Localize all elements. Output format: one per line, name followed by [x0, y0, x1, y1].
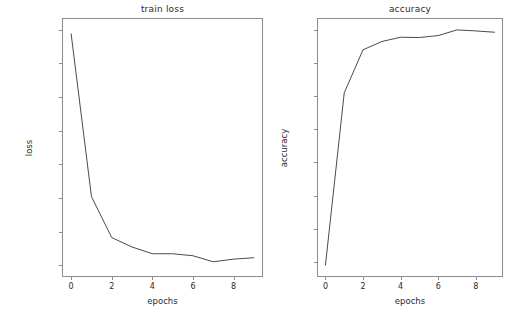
y-tick-mark — [314, 63, 317, 64]
series-line-accuracy — [325, 30, 494, 265]
y-tick-mark — [314, 162, 317, 163]
y-tick-mark — [314, 30, 317, 31]
y-axis-label-accuracy: accuracy — [279, 128, 289, 166]
y-tick-mark — [314, 96, 317, 97]
y-tick-mark — [314, 129, 317, 130]
x-tick-label: 8 — [473, 282, 478, 291]
x-tick-label: 0 — [323, 282, 328, 291]
x-axis-label-accuracy: epochs — [395, 296, 425, 306]
x-tick-label: 4 — [398, 282, 403, 291]
y-tick-mark — [314, 196, 317, 197]
x-tick-label: 6 — [436, 282, 441, 291]
matplotlib-figure: train loss 0.0000.0250.0500.0750.1000.12… — [0, 0, 524, 317]
y-tick-mark — [314, 229, 317, 230]
y-tick-mark — [314, 262, 317, 263]
x-tick-mark — [401, 277, 402, 280]
x-tick-mark — [325, 277, 326, 280]
series-accuracy — [0, 0, 524, 317]
x-tick-mark — [438, 277, 439, 280]
x-tick-mark — [476, 277, 477, 280]
x-tick-label: 2 — [360, 282, 365, 291]
x-tick-mark — [363, 277, 364, 280]
